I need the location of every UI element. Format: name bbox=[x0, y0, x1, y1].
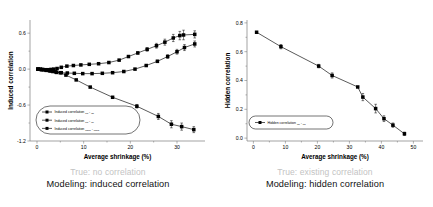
data-point bbox=[136, 51, 140, 55]
y-tick-label: -0.6 bbox=[17, 102, 26, 108]
data-point bbox=[193, 42, 197, 46]
y-tick-label: 0.0 bbox=[236, 135, 243, 141]
caption-model-right: Modeling: hidden correlation bbox=[217, 179, 433, 189]
caption-true-left: True: no correlation bbox=[0, 167, 216, 177]
data-point bbox=[180, 125, 184, 129]
data-point bbox=[157, 115, 161, 119]
panel-left-induced-correlation: 0.60.0-0.6-1.20102030Average shrinkage (… bbox=[0, 0, 216, 207]
y-axis-title: Hidden correlation bbox=[224, 53, 231, 109]
data-point bbox=[361, 95, 365, 99]
figure-container: 0.60.0-0.6-1.20102030Average shrinkage (… bbox=[0, 0, 433, 207]
data-point bbox=[90, 72, 94, 76]
data-point bbox=[374, 107, 378, 111]
data-point bbox=[79, 63, 83, 67]
data-point bbox=[111, 71, 115, 75]
data-point bbox=[330, 74, 334, 78]
data-point bbox=[45, 69, 49, 73]
x-tick-label: 0 bbox=[36, 144, 39, 150]
chart-legend: Induced correlation ηa - ηbInduced corre… bbox=[36, 106, 140, 134]
data-point bbox=[65, 64, 69, 68]
data-point bbox=[182, 33, 186, 37]
data-point bbox=[178, 34, 182, 38]
x-tick-label: 40 bbox=[379, 144, 385, 150]
data-point bbox=[72, 64, 76, 67]
data-point bbox=[127, 55, 131, 59]
data-point bbox=[111, 96, 115, 100]
y-tick-label: 0.4 bbox=[236, 77, 243, 83]
caption-true-right: True: existing correlation bbox=[217, 167, 433, 177]
data-point bbox=[59, 71, 63, 75]
data-point bbox=[74, 78, 78, 82]
data-point bbox=[155, 44, 159, 48]
plot-area-hidden: 0.00.20.40.60.801020304050Average shrink… bbox=[217, 0, 433, 170]
data-series bbox=[36, 41, 196, 75]
data-point bbox=[55, 67, 59, 71]
x-tick-label: 20 bbox=[127, 144, 133, 150]
data-point bbox=[193, 33, 197, 37]
data-point bbox=[88, 63, 92, 67]
data-point bbox=[97, 62, 101, 66]
data-point bbox=[36, 67, 40, 71]
data-point bbox=[122, 70, 126, 74]
x-tick-label: 20 bbox=[315, 144, 321, 150]
data-point bbox=[279, 45, 283, 49]
data-point bbox=[81, 72, 85, 76]
x-tick-label: 50 bbox=[411, 144, 417, 150]
data-point bbox=[40, 68, 44, 72]
data-point bbox=[135, 105, 139, 109]
y-tick-label: 0.0 bbox=[19, 66, 26, 72]
x-tick-label: 0 bbox=[252, 144, 255, 150]
data-point bbox=[166, 55, 170, 59]
y-tick-label: 0.6 bbox=[236, 49, 243, 55]
data-point bbox=[317, 64, 321, 68]
x-tick-label: 30 bbox=[347, 144, 353, 150]
panel-right-hidden-correlation: 0.00.20.40.60.801020304050Average shrink… bbox=[217, 0, 433, 207]
data-point bbox=[163, 40, 167, 44]
y-tick-label: 0.8 bbox=[236, 20, 243, 26]
x-tick-label: 10 bbox=[283, 144, 289, 150]
y-axis-title: Induced correlation bbox=[7, 51, 14, 110]
data-point bbox=[172, 36, 176, 40]
y-tick-label: 0.6 bbox=[19, 30, 26, 36]
data-point bbox=[60, 66, 64, 70]
data-point bbox=[145, 48, 149, 52]
data-point bbox=[73, 72, 77, 76]
y-tick-label: 0.2 bbox=[236, 106, 243, 112]
data-point bbox=[133, 67, 137, 71]
data-point bbox=[144, 64, 148, 67]
data-series bbox=[36, 30, 196, 71]
y-tick-label: -1.2 bbox=[17, 138, 26, 144]
data-point bbox=[54, 70, 58, 74]
x-axis-title: Average shrinkage (%) bbox=[301, 153, 369, 161]
x-tick-label: 10 bbox=[81, 144, 87, 150]
x-axis-title: Average shrinkage (%) bbox=[84, 153, 152, 161]
data-point bbox=[255, 30, 259, 34]
data-point bbox=[391, 123, 395, 127]
data-point bbox=[175, 50, 179, 54]
data-point bbox=[156, 60, 160, 64]
x-tick-label: 30 bbox=[174, 144, 180, 150]
data-point bbox=[183, 46, 187, 50]
chart-legend: Hidden correlation ηa - ηb bbox=[249, 116, 333, 129]
data-point bbox=[64, 73, 68, 77]
data-point bbox=[101, 72, 105, 76]
hidden-correlation-chart: 0.00.20.40.60.801020304050Average shrink… bbox=[217, 0, 433, 170]
data-point bbox=[107, 61, 111, 65]
plot-area-induced: 0.60.0-0.6-1.20102030Average shrinkage (… bbox=[0, 0, 216, 170]
data-point bbox=[382, 117, 386, 121]
data-point bbox=[403, 132, 407, 136]
data-point bbox=[117, 58, 121, 62]
caption-model-left: Modeling: induced correlation bbox=[0, 179, 216, 189]
data-point bbox=[49, 69, 53, 73]
data-point bbox=[170, 122, 174, 126]
data-point bbox=[356, 85, 360, 89]
induced-correlation-chart: 0.60.0-0.6-1.20102030Average shrinkage (… bbox=[0, 0, 216, 170]
data-point bbox=[192, 128, 196, 131]
data-point bbox=[88, 85, 92, 89]
